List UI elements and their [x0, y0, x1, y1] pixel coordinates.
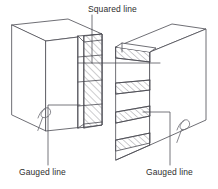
label-squared-line: Squared line [88, 4, 137, 14]
left-board [12, 19, 102, 131]
dovetail-joint-diagram [0, 0, 218, 189]
label-gauged-line-left: Gauged line [19, 167, 66, 177]
right-board [116, 24, 206, 160]
figure-container: Squared line Gauged line Gauged line [0, 0, 218, 189]
label-gauged-line-right: Gauged line [146, 167, 193, 177]
